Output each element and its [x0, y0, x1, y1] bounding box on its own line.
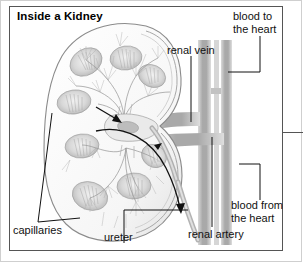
- label-blood-from-heart-line1: blood from: [231, 199, 283, 212]
- label-blood-from-heart: blood from the heart: [231, 199, 283, 224]
- label-blood-to-heart-line1: blood to: [233, 10, 276, 23]
- label-blood-from-heart-line2: the heart: [231, 212, 283, 225]
- label-ureter: ureter: [104, 231, 133, 244]
- label-renal-vein: renal vein: [167, 44, 215, 57]
- label-renal-artery: renal artery: [188, 228, 244, 241]
- label-blood-to-heart-line2: the heart: [233, 23, 276, 36]
- kidney-diagram-figure: Inside a Kidney renal vein renal artery …: [0, 0, 303, 263]
- right-edge-tick-mark: [283, 132, 303, 133]
- page-title: Inside a Kidney: [17, 10, 103, 22]
- label-blood-to-heart: blood to the heart: [233, 10, 276, 35]
- label-capillaries: capillaries: [13, 224, 62, 237]
